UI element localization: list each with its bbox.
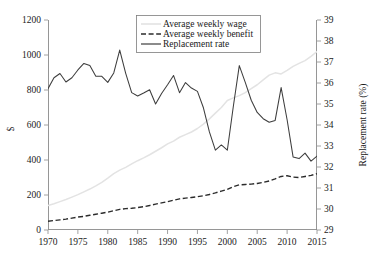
series-average-weekly-benefit: [48, 174, 317, 222]
x-axis-tick-label: 2015: [308, 237, 327, 247]
x-axis-tick-label: 2000: [218, 237, 237, 247]
series-replacement-rate: [48, 50, 317, 161]
x-axis-tick-label: 1970: [39, 237, 58, 247]
x-axis-tick-label: 2005: [248, 237, 267, 247]
x-axis-ticks: 1970197519801985199019952000200520102015: [39, 230, 327, 247]
y-axis-left-tick-label: 400: [27, 155, 42, 165]
y-axis-left-tick-label: 800: [27, 85, 42, 95]
series-average-weekly-wage: [48, 52, 317, 206]
y-axis-right-ticks: 2930313233343536373839: [317, 15, 334, 235]
line-chart: 020040060080010001200 293031323334353637…: [0, 0, 378, 257]
x-axis-tick-label: 1990: [158, 237, 177, 247]
y-axis-right-tick-label: 29: [324, 225, 334, 235]
series-group: [48, 50, 317, 221]
x-axis-tick-label: 2010: [278, 237, 297, 247]
x-axis-tick-label: 1975: [68, 237, 87, 247]
y-axis-right-tick-label: 39: [324, 15, 334, 25]
legend-label-average-weekly-benefit: Average weekly benefit: [163, 29, 253, 39]
y-axis-right-tick-label: 35: [324, 99, 334, 109]
x-axis-tick-label: 1995: [188, 237, 207, 247]
y-axis-left-tick-label: 1200: [22, 15, 41, 25]
y-axis-left-tick-label: 600: [27, 120, 42, 130]
y-axis-right-tick-label: 31: [324, 183, 334, 193]
y-axis-right-tick-label: 38: [324, 36, 334, 46]
x-axis-tick-label: 1985: [128, 237, 147, 247]
legend-label-replacement-rate: Replacement rate: [163, 39, 229, 49]
chart-figure: 020040060080010001200 293031323334353637…: [0, 0, 378, 257]
y-axis-right-tick-label: 32: [324, 162, 334, 172]
y-axis-left-tick-label: 0: [36, 225, 41, 235]
y-axis-right-tick-label: 33: [324, 141, 334, 151]
y-axis-right-tick-label: 30: [324, 204, 334, 214]
y-axis-right-tick-label: 34: [324, 120, 334, 130]
y-axis-right-title: Replacement rate (%): [358, 84, 369, 167]
x-axis-tick-label: 1980: [98, 237, 117, 247]
y-axis-right-tick-label: 37: [324, 57, 334, 67]
legend: Average weekly wage Average weekly benef…: [137, 16, 261, 53]
legend-label-average-weekly-wage: Average weekly wage: [163, 19, 247, 29]
y-axis-right-tick-label: 36: [324, 78, 334, 88]
y-axis-left-ticks: 020040060080010001200: [22, 15, 48, 235]
y-axis-left-tick-label: 1000: [22, 50, 41, 60]
y-axis-left-title: $: [6, 126, 16, 131]
y-axis-left-tick-label: 200: [27, 190, 42, 200]
